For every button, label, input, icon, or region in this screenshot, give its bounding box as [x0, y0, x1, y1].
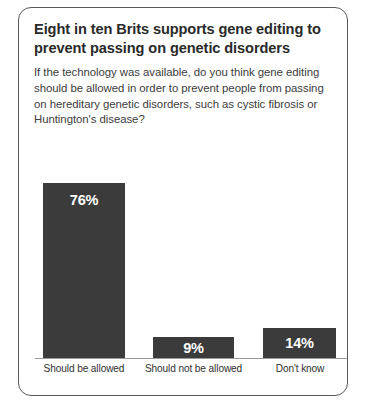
bar-group-should-be-allowed: 76%	[43, 183, 125, 358]
bar-dont-know[interactable]: 14%	[263, 328, 336, 358]
bar-should-not-be-allowed[interactable]: 9%	[153, 337, 234, 358]
screenshot-root: Eight in ten Brits supports gene editing…	[0, 0, 366, 404]
x-axis-label-dont-know: Don't know	[259, 363, 341, 374]
bar-value-should-be-allowed: 76%	[43, 192, 125, 208]
bar-group-dont-know: 14%	[263, 328, 336, 358]
x-axis-label-should-not-be-allowed: Should not be allowed	[136, 363, 251, 374]
page-title: Eight in ten Brits supports gene editing…	[34, 20, 334, 59]
survey-question-text: If the technology was available, do you …	[34, 65, 326, 128]
bar-group-should-not-be-allowed: 9%	[153, 337, 234, 358]
card-text-block: Eight in ten Brits supports gene editing…	[34, 20, 334, 128]
chart-baseline-axis	[35, 358, 347, 359]
poll-result-card: Eight in ten Brits supports gene editing…	[18, 7, 348, 396]
bar-should-be-allowed[interactable]: 76%	[43, 183, 125, 358]
x-axis-label-should-be-allowed: Should be allowed	[33, 363, 135, 374]
bar-value-should-not-be-allowed: 9%	[153, 339, 234, 355]
bar-value-dont-know: 14%	[263, 335, 336, 351]
